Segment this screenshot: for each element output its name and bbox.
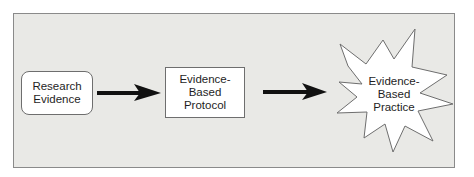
node-label-line: Practice [363, 101, 425, 114]
node-evidence-based-practice: Evidence- Based Practice [363, 75, 425, 114]
node-label-line: Based [363, 88, 425, 101]
arrow-icon [97, 84, 161, 101]
arrow-icon [263, 83, 327, 100]
node-label-line: Evidence- [363, 75, 425, 88]
